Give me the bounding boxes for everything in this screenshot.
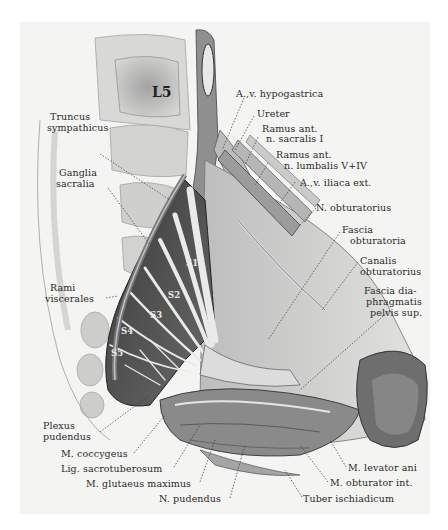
label-ganglia-sacralia-line1: Ganglia — [59, 168, 97, 178]
label-n-pudendus: N. pudendus — [159, 494, 221, 504]
label-m-obturator-int: M. obturator int. — [330, 478, 413, 488]
label-fascia-obturatoria-line1: Fascia — [342, 225, 373, 235]
label-ureter: Ureter — [257, 109, 290, 119]
label-fascia-diaphragmatis-line1: Fascia dia- — [364, 286, 417, 296]
label-fascia-obturatoria-line2: obturatoria — [350, 236, 406, 246]
lower-muscles — [160, 389, 360, 476]
label-ramus-sacralis-line2: n. sacralis I — [266, 134, 323, 144]
label-ramus-lumbalis-line1: Ramus ant. — [276, 150, 332, 160]
label-rami-viscerales-line1: Rami — [50, 283, 75, 293]
label-plexus-pudendus-line1: Plexus — [43, 421, 75, 431]
label-canalis-obturatorius-line1: Canalis — [360, 256, 396, 266]
label-av-hypogastrica: A.,v. hypogastrica — [236, 89, 323, 99]
label-fascia-diaphragmatis-line2: phragmatis — [366, 297, 422, 307]
root-s5-label: S5 — [111, 348, 123, 358]
label-m-glutaeus-maximus: M. glutaeus maximus — [86, 479, 191, 489]
label-plexus-pudendus-line2: pudendus — [43, 432, 91, 442]
label-rami-viscerales-line2: viscerales — [45, 294, 94, 304]
label-truncus-sympathicus-line1: Truncus — [50, 112, 90, 122]
root-s4-label: S4 — [121, 326, 133, 336]
label-canalis-obturatorius-line2: obturatorius — [360, 267, 421, 277]
label-m-levator-ani: M. levator ani — [348, 463, 417, 473]
root-s3-label: S3 — [150, 310, 162, 320]
label-ramus-lumbalis-line2: n. lumbalis V+IV — [284, 161, 367, 171]
label-m-coccygeus: M. coccygeus — [61, 449, 128, 459]
label-n-obturatorius: N. obturatorius — [316, 203, 391, 213]
root-s2-label: S2 — [168, 290, 180, 300]
label-av-iliaca-ext: A.,v. iliaca ext. — [300, 178, 371, 188]
label-truncus-sympathicus-line2: sympathicus — [47, 123, 108, 133]
label-tuber-ischiadicum: Tuber ischiadicum — [303, 494, 394, 504]
vertebra-l5-label: L5 — [152, 84, 172, 100]
root-s1-label: S1 — [186, 258, 198, 268]
label-lig-sacrotuberosum: Lig. sacrotuberosum — [61, 464, 162, 474]
label-ganglia-sacralia-line2: sacralia — [56, 179, 95, 189]
label-fascia-diaphragmatis-line3: pelvis sup. — [370, 308, 422, 318]
